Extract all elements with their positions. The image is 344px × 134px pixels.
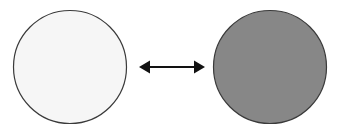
gray-circle-shape (214, 11, 327, 124)
light-circle-shape (14, 11, 127, 124)
diagram-canvas (0, 0, 344, 134)
diagram-svg (0, 0, 344, 134)
